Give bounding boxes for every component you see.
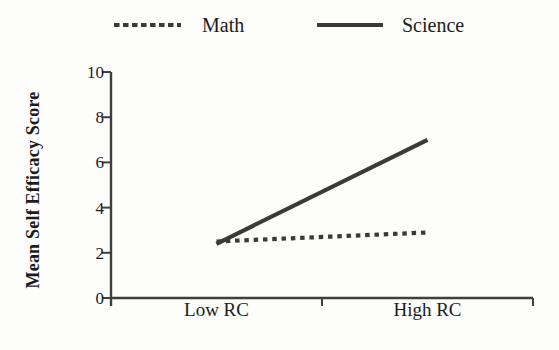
series-line-science (217, 140, 428, 244)
line-chart-plot: 0246810Low RCHigh RC (0, 0, 559, 350)
y-tick-label: 10 (87, 63, 104, 82)
series-line-math (217, 232, 428, 241)
chart-figure: Math Science Mean Self Efficacy Score 02… (0, 0, 559, 350)
y-tick-label: 6 (96, 153, 105, 172)
x-category-label: High RC (393, 299, 461, 320)
y-tick-label: 2 (96, 244, 105, 263)
y-tick-label: 8 (96, 108, 105, 127)
x-category-label: Low RC (184, 299, 249, 320)
y-tick-label: 0 (96, 289, 105, 308)
y-tick-label: 4 (96, 199, 105, 218)
